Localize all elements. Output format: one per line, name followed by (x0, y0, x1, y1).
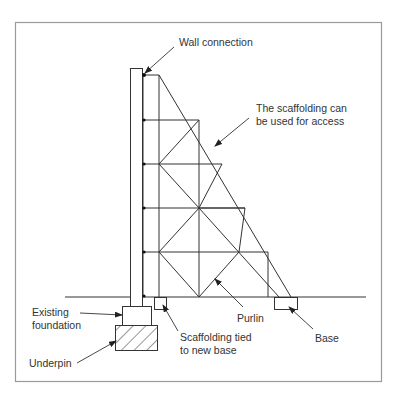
wall-connection-dot (142, 294, 145, 297)
leader-wall-connection (145, 47, 174, 73)
label-tied-line2: to new base (180, 344, 237, 357)
underpin-block (116, 326, 158, 351)
leader-base (289, 307, 313, 329)
wall-connection-dot (142, 250, 145, 253)
leader-access (215, 118, 249, 146)
leader-purlin (215, 279, 243, 307)
label-tied-line1: Scaffolding tied (180, 331, 252, 344)
leader-existing-foundation (80, 313, 122, 315)
brace (159, 120, 199, 164)
existing-wall (131, 69, 143, 307)
brace (159, 208, 199, 252)
purlin-brace (199, 252, 239, 297)
label-access-line1: The scaffolding can (256, 102, 347, 115)
raker-base (275, 298, 298, 310)
wall-connection-dot (142, 206, 145, 209)
wall-connection-dot (142, 73, 146, 77)
leader-underpin (77, 341, 116, 363)
wall-connection-dot (142, 118, 145, 121)
label-wall-connection: Wall connection (179, 36, 253, 49)
wall-connection-dot (142, 162, 145, 165)
brace (159, 164, 199, 208)
label-underpin: Underpin (29, 357, 72, 370)
label-purlin: Purlin (237, 312, 264, 325)
existing-foundation (123, 307, 152, 326)
brace (159, 252, 199, 297)
label-existing-line1: Existing (32, 306, 69, 319)
label-base: Base (315, 332, 339, 345)
brace (199, 164, 222, 208)
label-existing-line2: foundation (32, 319, 81, 332)
label-access-line2: be used for access (256, 115, 344, 128)
leader-tied-base (163, 305, 178, 331)
